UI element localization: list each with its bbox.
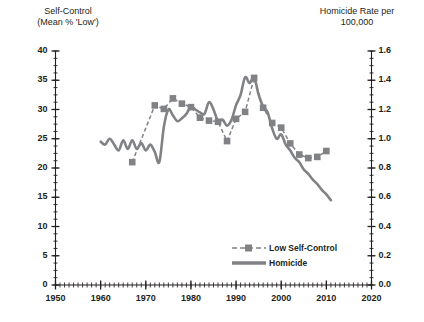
x-tick-1950: 1950 [39,293,73,303]
y-left-tick-25: 25 [24,133,48,143]
y-right-tick-1.6: 1.6 [379,45,405,55]
legend-item-low-self-control: Low Self-Control [232,240,362,255]
y-right-tick-0.2: 0.2 [379,250,405,260]
y-left-tick-0: 0 [24,279,48,289]
y-right-tick-0.4: 0.4 [379,221,405,231]
x-tick-2010: 2010 [309,293,343,303]
y-left-tick-40: 40 [24,45,48,55]
y-left-tick-20: 20 [24,162,48,172]
y-left-tick-35: 35 [24,74,48,84]
y-left-tick-30: 30 [24,104,48,114]
y-left-tick-5: 5 [24,250,48,260]
legend-swatch-dashed-square [232,242,266,254]
legend-swatch-solid [232,257,266,269]
y-right-tick-0.6: 0.6 [379,191,405,201]
legend-label-low-self-control: Low Self-Control [269,243,337,253]
legend-item-homicide: Homicide [232,255,362,270]
y-right-tick-1.0: 1.0 [379,133,405,143]
x-tick-2000: 2000 [264,293,298,303]
chart-page: Self-Control (Mean % 'Low') Homicide Rat… [0,0,424,322]
x-tick-1970: 1970 [129,293,163,303]
y-right-tick-0.8: 0.8 [379,162,405,172]
chart-legend: Low Self-Control Homicide [232,240,362,270]
x-tick-1990: 1990 [219,293,253,303]
y-right-tick-1.2: 1.2 [379,104,405,114]
chart-series [101,75,331,201]
legend-label-homicide: Homicide [269,258,307,268]
x-tick-1960: 1960 [84,293,118,303]
y-left-tick-10: 10 [24,221,48,231]
x-tick-2020: 2020 [355,293,389,303]
y-left-tick-15: 15 [24,191,48,201]
y-right-tick-1.4: 1.4 [379,74,405,84]
y-right-tick-0.0: 0.0 [379,279,405,289]
x-tick-1980: 1980 [174,293,208,303]
chart-plot-area [0,0,424,322]
